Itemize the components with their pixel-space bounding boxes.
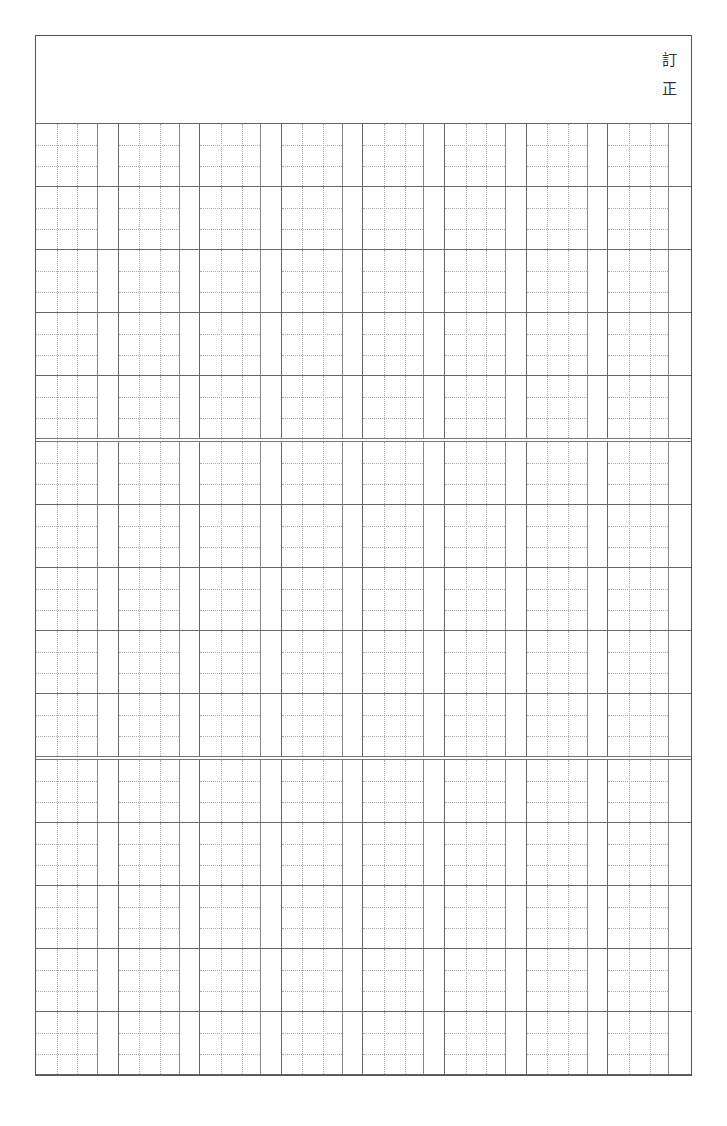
writing-cell[interactable] — [281, 694, 343, 756]
writing-cell[interactable] — [362, 505, 424, 567]
writing-cell[interactable] — [199, 250, 261, 312]
writing-cell[interactable] — [526, 949, 588, 1011]
writing-cell[interactable] — [281, 949, 343, 1011]
writing-cell[interactable] — [118, 313, 180, 375]
writing-cell[interactable] — [607, 568, 669, 630]
writing-cell[interactable] — [36, 313, 98, 375]
writing-cell[interactable] — [444, 949, 506, 1011]
writing-cell[interactable] — [36, 949, 98, 1011]
writing-cell[interactable] — [526, 694, 588, 756]
writing-cell[interactable] — [118, 1012, 180, 1074]
writing-cell[interactable] — [36, 886, 98, 948]
writing-cell[interactable] — [36, 505, 98, 567]
writing-cell[interactable] — [526, 631, 588, 693]
writing-cell[interactable] — [281, 505, 343, 567]
writing-cell[interactable] — [362, 376, 424, 438]
writing-cell[interactable] — [281, 124, 343, 186]
writing-cell[interactable] — [526, 124, 588, 186]
writing-cell[interactable] — [281, 376, 343, 438]
writing-cell[interactable] — [362, 1012, 424, 1074]
writing-cell[interactable] — [362, 694, 424, 756]
writing-cell[interactable] — [444, 124, 506, 186]
writing-cell[interactable] — [444, 250, 506, 312]
writing-cell[interactable] — [444, 313, 506, 375]
writing-cell[interactable] — [362, 187, 424, 249]
writing-cell[interactable] — [281, 442, 343, 504]
writing-cell[interactable] — [118, 760, 180, 822]
writing-cell[interactable] — [36, 823, 98, 885]
writing-cell[interactable] — [526, 886, 588, 948]
writing-cell[interactable] — [118, 442, 180, 504]
writing-cell[interactable] — [199, 442, 261, 504]
writing-cell[interactable] — [281, 250, 343, 312]
writing-cell[interactable] — [607, 631, 669, 693]
writing-cell[interactable] — [199, 376, 261, 438]
writing-cell[interactable] — [362, 886, 424, 948]
writing-cell[interactable] — [444, 1012, 506, 1074]
writing-cell[interactable] — [607, 313, 669, 375]
writing-cell[interactable] — [281, 631, 343, 693]
writing-cell[interactable] — [118, 250, 180, 312]
writing-cell[interactable] — [444, 505, 506, 567]
writing-cell[interactable] — [199, 694, 261, 756]
writing-cell[interactable] — [281, 187, 343, 249]
writing-cell[interactable] — [199, 760, 261, 822]
writing-cell[interactable] — [36, 250, 98, 312]
writing-cell[interactable] — [607, 949, 669, 1011]
writing-cell[interactable] — [607, 442, 669, 504]
writing-cell[interactable] — [36, 760, 98, 822]
writing-cell[interactable] — [362, 760, 424, 822]
writing-cell[interactable] — [444, 442, 506, 504]
writing-cell[interactable] — [362, 250, 424, 312]
writing-cell[interactable] — [36, 631, 98, 693]
writing-cell[interactable] — [281, 1012, 343, 1074]
writing-cell[interactable] — [444, 760, 506, 822]
writing-cell[interactable] — [199, 823, 261, 885]
writing-cell[interactable] — [362, 313, 424, 375]
writing-cell[interactable] — [36, 1012, 98, 1074]
writing-cell[interactable] — [118, 949, 180, 1011]
writing-cell[interactable] — [362, 442, 424, 504]
writing-cell[interactable] — [607, 760, 669, 822]
writing-cell[interactable] — [607, 694, 669, 756]
writing-cell[interactable] — [607, 124, 669, 186]
writing-cell[interactable] — [526, 313, 588, 375]
writing-cell[interactable] — [444, 376, 506, 438]
writing-cell[interactable] — [118, 376, 180, 438]
writing-cell[interactable] — [526, 760, 588, 822]
writing-cell[interactable] — [199, 886, 261, 948]
writing-cell[interactable] — [362, 631, 424, 693]
writing-cell[interactable] — [526, 187, 588, 249]
writing-cell[interactable] — [281, 886, 343, 948]
writing-cell[interactable] — [118, 886, 180, 948]
writing-cell[interactable] — [444, 694, 506, 756]
writing-cell[interactable] — [526, 250, 588, 312]
writing-cell[interactable] — [36, 568, 98, 630]
writing-cell[interactable] — [36, 442, 98, 504]
writing-cell[interactable] — [526, 1012, 588, 1074]
writing-cell[interactable] — [526, 823, 588, 885]
writing-cell[interactable] — [199, 187, 261, 249]
writing-cell[interactable] — [444, 187, 506, 249]
writing-cell[interactable] — [444, 568, 506, 630]
writing-cell[interactable] — [362, 823, 424, 885]
writing-cell[interactable] — [607, 505, 669, 567]
writing-cell[interactable] — [362, 568, 424, 630]
writing-cell[interactable] — [444, 631, 506, 693]
writing-cell[interactable] — [526, 442, 588, 504]
writing-cell[interactable] — [118, 124, 180, 186]
writing-cell[interactable] — [281, 568, 343, 630]
writing-cell[interactable] — [444, 823, 506, 885]
writing-cell[interactable] — [281, 760, 343, 822]
writing-cell[interactable] — [36, 694, 98, 756]
writing-cell[interactable] — [199, 124, 261, 186]
writing-cell[interactable] — [199, 313, 261, 375]
writing-cell[interactable] — [199, 568, 261, 630]
writing-cell[interactable] — [526, 376, 588, 438]
writing-cell[interactable] — [199, 949, 261, 1011]
writing-cell[interactable] — [526, 505, 588, 567]
writing-cell[interactable] — [607, 1012, 669, 1074]
writing-cell[interactable] — [118, 694, 180, 756]
writing-cell[interactable] — [281, 313, 343, 375]
writing-cell[interactable] — [281, 823, 343, 885]
